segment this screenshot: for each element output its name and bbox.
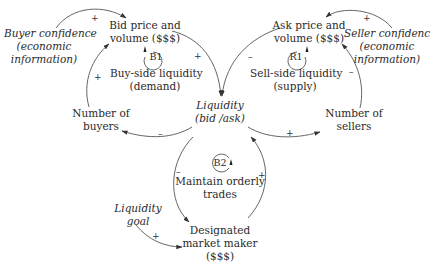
arrow-liquidity-to-sellers [248, 127, 320, 137]
loop-label: (demand) [110, 80, 200, 93]
node-label: ($$$) [180, 250, 260, 263]
node-label: Seller confidence [344, 27, 430, 40]
node-label: (economic [4, 40, 84, 53]
node-label: Buyer confidence [4, 27, 84, 40]
node-label: Designated [180, 224, 260, 237]
node-label: sellers [319, 120, 389, 133]
sign-goal-to-dmm: + [152, 232, 160, 241]
sign-dmm-to-liquidity: + [258, 171, 266, 180]
node-label: information) [4, 53, 84, 66]
node-liquidity: Liquidity (bid /ask) [185, 99, 255, 125]
node-seller-confidence: Seller confidence (economic information) [344, 27, 430, 66]
node-buyer-confidence: Buyer confidence (economic information) [4, 27, 84, 66]
sign-liquidity-to-buyers: – [158, 130, 163, 139]
node-label: market maker [180, 237, 260, 250]
loop-label: Maintain orderly [175, 175, 265, 188]
node-label: Number of [66, 107, 136, 120]
loop-label: Sell-side liquidity [250, 67, 340, 80]
loop-r1-id: R1 [286, 47, 306, 67]
sign-sellers-to-ask: – [349, 68, 354, 77]
loop-label: trades [175, 188, 265, 201]
node-label: (bid /ask) [185, 112, 255, 125]
node-number-of-buyers: Number of buyers [66, 107, 136, 133]
loop-r1-label: Sell-side liquidity (supply) [250, 67, 340, 93]
sign-buyers-to-bid: + [94, 73, 102, 82]
node-liquidity-goal: Liquidity goal [110, 202, 166, 228]
node-designated-market-maker: Designated market maker ($$$) [180, 224, 260, 263]
node-label: information) [344, 53, 430, 66]
loop-b2-label: Maintain orderly trades [175, 175, 265, 201]
loop-b2-id: B2 [210, 153, 230, 173]
node-ask-price: Ask price and volume ($$$) [269, 19, 349, 45]
node-label: volume ($$$) [269, 32, 349, 45]
node-label: goal [110, 215, 166, 228]
loop-label: Buy-side liquidity [110, 67, 200, 80]
sign-ask-to-liquidity: – [248, 53, 253, 62]
node-label: Bid price and [105, 19, 185, 32]
sign-liquidity-to-dmm: – [176, 168, 181, 177]
node-label: Liquidity [110, 202, 166, 215]
sign-liquidity-to-sellers: + [286, 129, 294, 138]
sign-buyer-conf-to-bid: + [91, 14, 99, 23]
node-label: volume ($$$) [105, 32, 185, 45]
node-label: Number of [319, 107, 389, 120]
loop-label: (supply) [250, 80, 340, 93]
node-bid-price: Bid price and volume ($$$) [105, 19, 185, 45]
loop-b1-id: B1 [146, 47, 166, 67]
sign-seller-conf-to-ask: + [363, 14, 371, 23]
node-label: buyers [66, 120, 136, 133]
node-label: Ask price and [269, 19, 349, 32]
sign-bid-to-liquidity: + [194, 52, 202, 61]
node-number-of-sellers: Number of sellers [319, 107, 389, 133]
node-label: Liquidity [185, 99, 255, 112]
node-label: (economic [344, 40, 430, 53]
loop-b1-label: Buy-side liquidity (demand) [110, 67, 200, 93]
